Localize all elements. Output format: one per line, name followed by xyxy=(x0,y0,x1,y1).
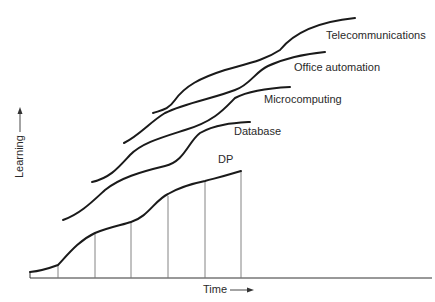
curve-dp xyxy=(30,171,241,272)
y-axis-label: Learning xyxy=(13,135,25,178)
learning-curves-diagram xyxy=(0,0,435,302)
label-telecommunications: Telecommunications xyxy=(326,29,426,41)
x-axis-label: Time xyxy=(203,283,227,295)
label-office-automation: Office automation xyxy=(294,61,380,73)
label-microcomputing: Microcomputing xyxy=(264,93,342,105)
label-dp: DP xyxy=(218,153,233,165)
label-database: Database xyxy=(234,125,281,137)
time-arrowhead-icon xyxy=(247,288,254,293)
learning-arrowhead-icon xyxy=(18,107,23,114)
dp-drop-lines xyxy=(58,171,241,278)
curve-database xyxy=(63,122,250,220)
